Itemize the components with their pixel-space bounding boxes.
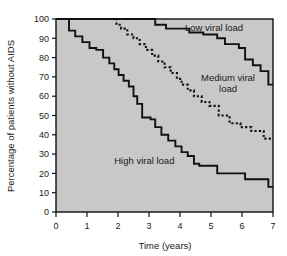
high-viral-load-label: High viral load (114, 155, 174, 166)
x-tick-label: 2 (115, 221, 120, 231)
medium-viral-load-label: load (219, 83, 237, 94)
chart-figure: 0102030405060708090100 01234567 Low vira… (0, 0, 287, 256)
y-tick-label: 50 (39, 111, 49, 121)
x-axis-title: Time (years) (139, 240, 192, 251)
survival-curve-chart: 0102030405060708090100 01234567 Low vira… (0, 0, 287, 256)
y-tick-label: 60 (39, 91, 49, 101)
x-tick-label: 3 (146, 221, 151, 231)
low-viral-load-label: Low viral load (185, 22, 243, 33)
y-tick-label: 10 (39, 188, 49, 198)
x-tick-label: 4 (177, 221, 182, 231)
y-tick-label: 40 (39, 130, 49, 140)
y-tick-label: 80 (39, 53, 49, 63)
y-tick-label: 90 (39, 34, 49, 44)
y-tick-label: 100 (34, 14, 49, 24)
x-tick-label: 6 (239, 221, 244, 231)
x-tick-label: 5 (208, 221, 213, 231)
y-tick-label: 0 (44, 207, 49, 217)
y-tick-label: 30 (39, 149, 49, 159)
y-axis-title: Percentage of patients without AIDS (5, 40, 16, 192)
x-tick-label: 1 (84, 221, 89, 231)
medium-viral-load-label: Medium viral (201, 72, 255, 83)
y-tick-label: 70 (39, 72, 49, 82)
x-tick-label: 7 (270, 221, 275, 231)
x-tick-label: 0 (53, 221, 58, 231)
y-tick-label: 20 (39, 169, 49, 179)
